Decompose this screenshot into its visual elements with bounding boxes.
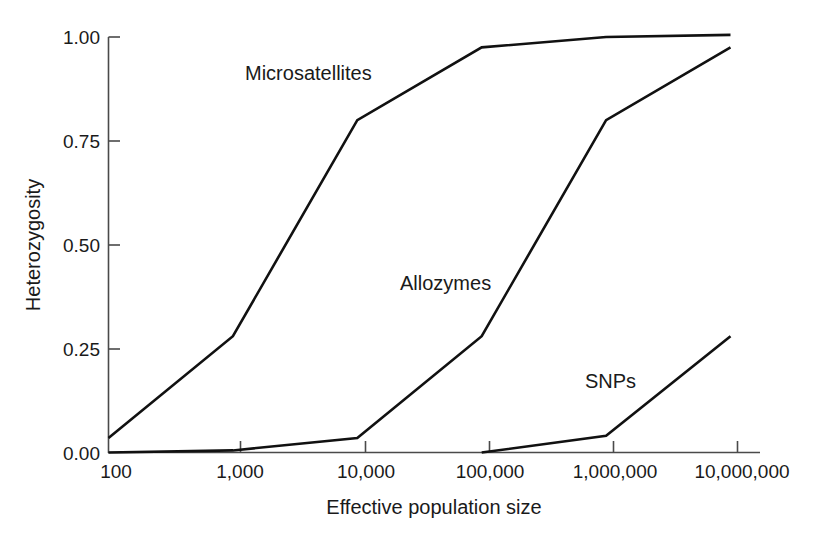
line-chart-plot: 1.00 0.75 0.50 0.25 0.00 100 1,000 10,00… [0, 0, 824, 543]
series-label-snps: SNPs [585, 370, 636, 392]
x-axis-title: Effective population size [326, 496, 541, 518]
x-tick-label-10000: 10,000 [337, 461, 395, 482]
chart-figure: 1.00 0.75 0.50 0.25 0.00 100 1,000 10,00… [0, 0, 824, 543]
x-tick-label-1000000: 1,000,000 [573, 461, 658, 482]
y-tick-label-0.75: 0.75 [63, 131, 100, 152]
y-tick-label-1.00: 1.00 [63, 27, 100, 48]
x-tick-label-100: 100 [100, 461, 132, 482]
y-axis-title: Heterozygosity [22, 179, 44, 311]
y-tick-label-0.25: 0.25 [63, 339, 100, 360]
x-tick-label-100000: 100,000 [456, 461, 525, 482]
x-tick-label-10000000: 10,000,000 [694, 461, 789, 482]
y-tick-label-0.00: 0.00 [63, 443, 100, 464]
series-label-microsatellites: Microsatellites [245, 62, 372, 84]
x-tick-label-1000: 1,000 [216, 461, 264, 482]
y-tick-label-0.50: 0.50 [63, 235, 100, 256]
series-label-allozymes: Allozymes [400, 272, 491, 294]
